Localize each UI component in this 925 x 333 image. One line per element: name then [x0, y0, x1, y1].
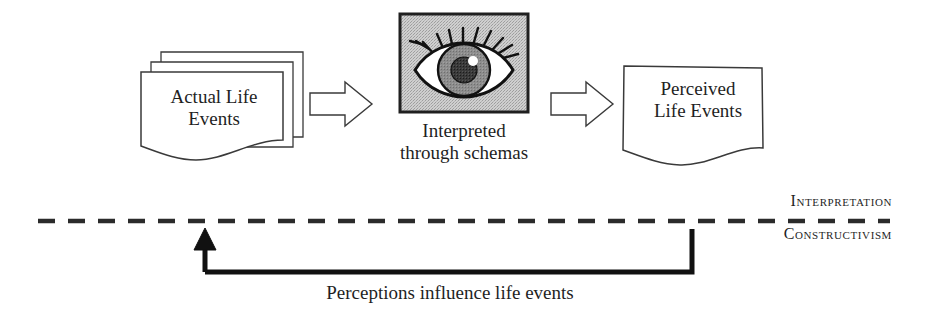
eye-illustration [400, 14, 528, 112]
label-feedback-caption: Perceptions influence life events [250, 282, 650, 304]
block-arrow-right-1 [310, 82, 372, 126]
label-perceived-life-events: Perceived Life Events [628, 78, 768, 123]
label-interpretation: Interpretation [592, 192, 892, 210]
feedback-arrowhead [194, 228, 216, 250]
diagram-canvas: Actual Life Events Interpreted through s… [0, 0, 925, 333]
label-constructivism: Constructivism [592, 225, 892, 243]
block-arrow-right-2 [551, 82, 613, 126]
label-actual-life-events: Actual Life Events [148, 86, 280, 131]
label-interpreted-through-schemas: Interpreted through schemas [394, 120, 534, 165]
eye-highlight [468, 56, 478, 66]
